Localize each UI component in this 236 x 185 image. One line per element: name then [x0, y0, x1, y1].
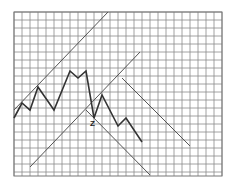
- annotations: Z: [90, 119, 95, 128]
- chart: Z: [0, 0, 236, 185]
- right-channel-line: [122, 78, 190, 146]
- annotation-label: Z: [90, 119, 95, 128]
- middle-trendline: [30, 52, 140, 167]
